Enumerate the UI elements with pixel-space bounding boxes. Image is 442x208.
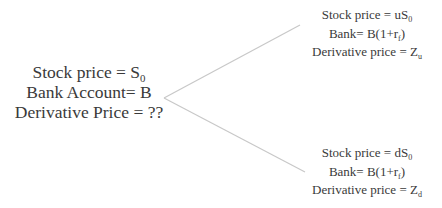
edge-up bbox=[164, 25, 300, 98]
root-bank-account: Bank Account= B bbox=[0, 82, 178, 102]
root-stock-price: Stock price = S0 bbox=[0, 62, 178, 82]
up-derivative-price: Derivative price = Zu bbox=[292, 43, 442, 62]
up-node: Stock price = uS0 Bank= B(1+rf) Derivati… bbox=[292, 6, 442, 62]
up-stock-price: Stock price = uS0 bbox=[292, 6, 442, 25]
down-bank: Bank= B(1+rf) bbox=[292, 163, 442, 182]
edge-down bbox=[164, 98, 305, 172]
down-node: Stock price = dS0 Bank= B(1+rf) Derivati… bbox=[292, 144, 442, 200]
down-derivative-price: Derivative price = Zd bbox=[292, 181, 442, 200]
root-derivative-price: Derivative Price = ?? bbox=[0, 102, 178, 122]
root-node: Stock price = S0 Bank Account= B Derivat… bbox=[0, 62, 178, 122]
down-stock-price: Stock price = dS0 bbox=[292, 144, 442, 163]
up-bank: Bank= B(1+rf) bbox=[292, 25, 442, 44]
